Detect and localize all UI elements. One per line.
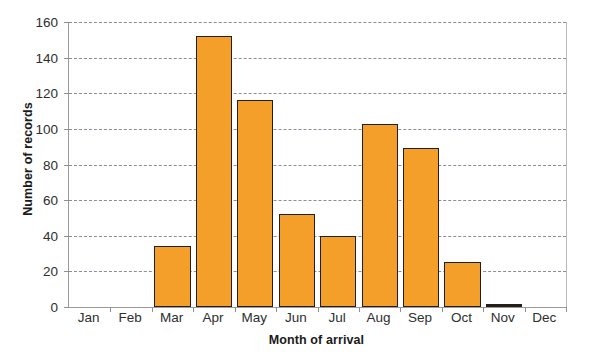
x-axis-tick-label: Aug <box>367 310 391 325</box>
plot-area <box>68 22 567 308</box>
y-axis-tick-labels: 020406080100120140160 <box>0 0 68 357</box>
bar[interactable] <box>403 148 439 307</box>
x-axis-title: Month of arrival <box>68 333 565 347</box>
x-axis-tick-label: Dec <box>532 310 556 325</box>
y-axis-tick-label: 20 <box>43 264 58 279</box>
bar[interactable] <box>444 262 480 307</box>
y-axis-tick-label: 100 <box>35 121 58 136</box>
bar-slot <box>110 22 151 307</box>
x-axis-tick-label: Jun <box>285 310 307 325</box>
bar-slot <box>400 22 441 307</box>
bar-slot <box>152 22 193 307</box>
x-axis-tick-label: Mar <box>160 310 183 325</box>
y-axis-tick-label: 120 <box>35 86 58 101</box>
x-axis-tick-labels: JanFebMarAprMayJunJulAugSepOctNovDec <box>68 310 565 330</box>
x-axis-tick-label: Sep <box>408 310 432 325</box>
bar[interactable] <box>362 124 398 307</box>
x-axis-tick-label: Feb <box>118 310 141 325</box>
y-axis-tick-label: 40 <box>43 228 58 243</box>
bar-slot <box>69 22 110 307</box>
bar-slot <box>276 22 317 307</box>
y-axis-tick-label: 0 <box>50 300 58 315</box>
bar[interactable] <box>196 36 232 307</box>
bars-layer <box>69 22 566 307</box>
y-axis-tick-label: 140 <box>35 50 58 65</box>
bar-slot <box>318 22 359 307</box>
bar[interactable] <box>154 246 190 307</box>
y-axis-tick-label: 160 <box>35 15 58 30</box>
bar-slot <box>525 22 566 307</box>
y-axis-tick <box>64 307 69 308</box>
x-axis-tick-label: May <box>242 310 268 325</box>
bar-chart: Number of records 020406080100120140160 … <box>0 0 592 357</box>
y-axis-tick-label: 60 <box>43 193 58 208</box>
x-axis-tick-label: Jul <box>329 310 346 325</box>
bar[interactable] <box>486 304 522 308</box>
y-axis-tick-label: 80 <box>43 157 58 172</box>
bar-slot <box>193 22 234 307</box>
x-axis-tick-label: Nov <box>491 310 515 325</box>
bar[interactable] <box>320 236 356 307</box>
bar-slot <box>235 22 276 307</box>
bar[interactable] <box>279 214 315 307</box>
x-axis-tick-label: Apr <box>202 310 223 325</box>
x-axis-tick <box>566 307 567 312</box>
bar-slot <box>442 22 483 307</box>
bar-slot <box>483 22 524 307</box>
x-axis-tick-label: Oct <box>451 310 472 325</box>
bar[interactable] <box>237 100 273 307</box>
bar-slot <box>359 22 400 307</box>
x-axis-tick-label: Jan <box>78 310 100 325</box>
